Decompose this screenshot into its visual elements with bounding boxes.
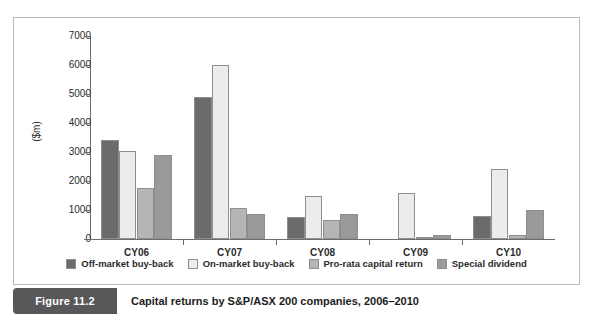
bar-cy08-series-2 [323,220,341,239]
y-tick-mark [84,210,91,211]
bar-cy07-series-3 [247,214,265,239]
legend-item-2: Pro-rata capital return [309,258,423,269]
figure-panel: ($m) 01000200030004000500060007000 CY06C… [13,17,580,285]
bar-cy06-series-3 [154,155,172,239]
y-tick-mark [84,239,91,240]
bar-cy07-series-2 [230,208,248,239]
legend-swatch-icon [309,259,319,269]
legend-label: On-market buy-back [203,258,295,269]
y-tick-mark [84,36,91,37]
y-tick-mark [84,152,91,153]
x-axis-line [90,239,555,240]
bar-cy09-series-1 [398,193,416,239]
bar-cy10-series-3 [526,210,544,239]
bar-cy07-series-0 [194,97,212,239]
y-tick-2000: 2000 [14,181,91,182]
bar-cy07-series-1 [212,65,230,239]
chart-plot-area: ($m) 01000200030004000500060007000 CY06C… [14,18,579,284]
y-tick-0: 0 [14,239,91,240]
bar-cy10-series-0 [473,216,491,239]
x-tick-mark [276,240,277,245]
legend-item-0: Off-market buy-back [66,258,173,269]
bar-cy06-series-0 [101,140,119,239]
x-tick-mark [369,240,370,245]
x-category-label-cy07: CY07 [217,247,242,258]
bar-cy08-series-3 [340,214,358,239]
y-tick-mark [84,94,91,95]
x-category-label-cy08: CY08 [310,247,335,258]
legend-swatch-icon [66,259,76,269]
y-tick-mark [84,65,91,66]
bar-cy09-series-2 [416,237,434,239]
y-tick-3000: 3000 [14,152,91,153]
y-tick-6000: 6000 [14,65,91,66]
x-tick-mark [183,240,184,245]
figure-number-badge: Figure 11.2 [13,288,117,314]
bar-cy06-series-2 [137,188,155,239]
x-category-label-cy10: CY10 [496,247,521,258]
bar-cy09-series-3 [433,235,451,239]
chart-legend: Off-market buy-backOn-market buy-backPro… [14,258,579,269]
figure-caption-text: Capital returns by S&P/ASX 200 companies… [117,288,580,314]
y-tick-1000: 1000 [14,210,91,211]
x-category-label-cy09: CY09 [403,247,428,258]
legend-label: Off-market buy-back [81,258,173,269]
y-tick-4000: 4000 [14,123,91,124]
bar-cy08-series-1 [305,196,323,240]
legend-item-1: On-market buy-back [188,258,295,269]
y-tick-7000: 7000 [14,36,91,37]
y-tick-mark [84,123,91,124]
legend-item-3: Special dividend [437,258,527,269]
legend-swatch-icon [188,259,198,269]
y-tick-5000: 5000 [14,94,91,95]
legend-swatch-icon [437,259,447,269]
bar-cy10-series-1 [491,169,509,239]
y-tick-mark [84,181,91,182]
bar-cy10-series-2 [509,235,527,239]
figure-caption: Figure 11.2 Capital returns by S&P/ASX 2… [13,288,580,314]
x-category-label-cy06: CY06 [124,247,149,258]
x-tick-mark [462,240,463,245]
bar-cy06-series-1 [119,151,137,239]
bar-cy08-series-0 [287,217,305,239]
legend-label: Pro-rata capital return [324,258,423,269]
legend-label: Special dividend [452,258,527,269]
